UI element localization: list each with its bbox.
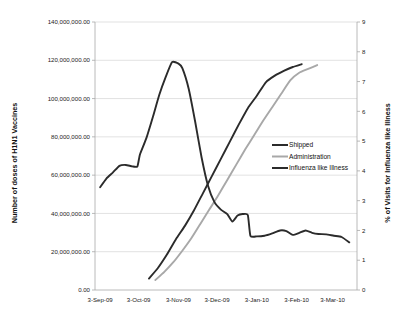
series-line-administration xyxy=(155,65,317,280)
x-axis-tick-label: 3-Sep-09 xyxy=(88,296,114,303)
gridlines-group xyxy=(95,22,357,252)
y-axis-left-tick-label: 20,000,000.00 xyxy=(51,248,91,255)
y-axis-right-tick-label: 2 xyxy=(362,227,366,234)
y-axis-left-tick-label: 120,000,000.00 xyxy=(48,56,91,63)
legend-label-influenza-like-illness: Influenza like Illness xyxy=(289,164,349,171)
y-axis-right-tick-label: 0 xyxy=(362,286,366,293)
y-axis-left-title: Number of doses of H1N1 Vaccines xyxy=(10,103,19,224)
h1n1-vaccine-ili-line-chart: 0.0020,000,000.0040,000,000.0060,000,000… xyxy=(0,0,402,326)
y-axis-right-tick-label: 4 xyxy=(362,167,366,174)
y-axis-left-labels: 0.0020,000,000.0040,000,000.0060,000,000… xyxy=(48,18,91,293)
y-axis-right-tick-label: 8 xyxy=(362,48,366,55)
x-axis-tick-label: 3-Oct-09 xyxy=(127,296,151,303)
y-axis-right-tick-label: 7 xyxy=(362,78,366,85)
y-axis-right-tick-label: 1 xyxy=(362,256,366,263)
chart-container: 0.0020,000,000.0040,000,000.0060,000,000… xyxy=(0,0,402,326)
y-axis-right-tick-label: 6 xyxy=(362,108,366,115)
y-axis-left-tick-label: 40,000,000.00 xyxy=(51,210,91,217)
y-axis-right-tick-label: 5 xyxy=(362,137,366,144)
y-axis-right-labels: 0123456789 xyxy=(362,18,366,293)
x-axis-labels: 3-Sep-093-Oct-093-Nov-093-Dec-093-Jan-10… xyxy=(88,296,346,303)
x-axis-tick-label: 3-Jan-10 xyxy=(245,296,270,303)
y-axis-left-tick-label: 140,000,000.00 xyxy=(48,18,91,25)
x-axis-tick-label: 3-Feb-10 xyxy=(284,296,309,303)
y-axis-left-tick-label: 0.00 xyxy=(78,286,90,293)
y-axis-right-tick-label: 3 xyxy=(362,197,366,204)
y-axis-left-tick-label: 80,000,000.00 xyxy=(51,133,91,140)
legend-label-administration: Administration xyxy=(289,153,331,160)
y-axis-right-tick-label: 9 xyxy=(362,18,366,25)
y-axis-right-title: % of Visits for Influenza like Illness xyxy=(383,103,392,222)
x-axis-tick-label: 3-Dec-09 xyxy=(204,296,230,303)
legend-label-shipped: Shipped xyxy=(289,141,314,149)
x-axis-tick-label: 3-Nov-09 xyxy=(166,296,192,303)
legend: ShippedAdministrationInfluenza like Illn… xyxy=(272,141,349,171)
y-axis-left-tick-label: 100,000,000.00 xyxy=(48,95,91,102)
y-axis-left-tick-label: 60,000,000.00 xyxy=(51,171,91,178)
x-axis-tick-label: 3-Mar-10 xyxy=(320,296,345,303)
